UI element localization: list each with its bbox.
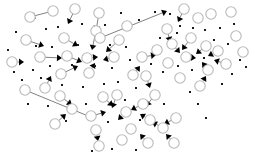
- graph-node-circle: [231, 31, 241, 41]
- leaf-node-dot: [221, 83, 223, 85]
- graph-node-circle: [35, 52, 45, 62]
- leaf-node-dot: [239, 59, 241, 61]
- circle-node-layer: [7, 4, 248, 151]
- leaf-node-dot: [7, 49, 9, 51]
- leaf-node-dot: [15, 31, 17, 33]
- edge-arrowhead: [182, 44, 188, 50]
- graph-node-circle: [40, 83, 50, 93]
- leaf-node-dot: [135, 149, 137, 151]
- leaf-node-dot: [138, 19, 140, 21]
- leaf-node-dot: [129, 59, 131, 61]
- leaf-node-dot: [245, 66, 247, 68]
- leaf-node-dot: [154, 11, 156, 13]
- network-graph-canvas: [0, 0, 255, 163]
- graph-node-circle: [48, 6, 58, 16]
- graph-node-circle: [226, 7, 236, 17]
- graph-node-circle: [122, 21, 132, 31]
- leaf-node-dot: [65, 120, 67, 122]
- edge-arrowhead: [93, 54, 98, 61]
- graph-edge: [97, 18, 98, 26]
- leaf-node-dot: [192, 27, 194, 29]
- leaf-node-dot: [117, 81, 119, 83]
- edge-arrowhead: [57, 54, 62, 61]
- edge-arrowhead: [19, 59, 24, 66]
- graph-edge: [72, 58, 78, 60]
- graph-node-circle: [238, 47, 248, 57]
- graph-edge: [70, 14, 73, 20]
- leaf-node-dot: [21, 79, 23, 81]
- leaf-node-dot: [125, 46, 127, 48]
- graph-node-circle: [186, 33, 196, 43]
- graph-node-circle: [221, 59, 231, 69]
- leaf-node-dot: [120, 12, 122, 14]
- leaf-node-dot: [139, 119, 141, 121]
- leaf-node-dot: [13, 71, 15, 73]
- leaf-node-dot: [204, 29, 206, 31]
- graph-edge: [114, 100, 115, 103]
- graph-node-circle: [112, 90, 122, 100]
- graph-node-circle: [158, 123, 168, 133]
- leaf-node-dot: [162, 71, 164, 73]
- leaf-node-dot: [219, 27, 221, 29]
- leaf-node-dot: [205, 117, 207, 119]
- leaf-node-dot: [109, 44, 111, 46]
- graph-edge: [149, 99, 152, 102]
- graph-node-circle: [138, 99, 148, 109]
- leaf-node-dot: [45, 28, 47, 30]
- edge-arrowhead: [196, 48, 202, 54]
- leaf-node-dot: [135, 87, 137, 89]
- graph-edge: [35, 12, 48, 15]
- leaf-node-dot: [49, 65, 51, 67]
- leaf-node-dot: [177, 65, 179, 67]
- graph-edge: [105, 13, 163, 36]
- leaf-node-dot: [197, 103, 199, 105]
- graph-node-circle: [162, 24, 172, 34]
- graph-node-circle: [94, 8, 104, 18]
- graph-node-circle: [175, 73, 185, 83]
- leaf-node-dot: [124, 99, 126, 101]
- graph-node-circle: [201, 41, 211, 51]
- graph-node-circle: [59, 33, 69, 43]
- graph-node-circle: [7, 57, 17, 67]
- leaf-node-dot: [32, 69, 34, 71]
- leaf-node-dot: [191, 69, 193, 71]
- leaf-node-dot: [111, 148, 113, 150]
- graph-node-circle: [94, 141, 104, 151]
- graph-node-circle: [181, 52, 191, 62]
- leaf-node-dot: [94, 65, 96, 67]
- graph-node-circle: [143, 138, 153, 148]
- graph-node-circle: [213, 46, 223, 56]
- graph-node-circle: [206, 9, 216, 19]
- leaf-node-dot: [233, 23, 235, 25]
- graph-node-circle: [109, 52, 119, 62]
- graph-node-circle: [21, 35, 31, 45]
- graph-node-circle: [121, 107, 131, 117]
- graph-node-circle: [137, 52, 147, 62]
- leaf-node-dot: [179, 25, 181, 27]
- leaf-node-dot: [51, 46, 53, 48]
- graph-node-circle: [179, 4, 189, 14]
- graph-edge: [64, 99, 68, 102]
- graph-edge: [69, 41, 74, 44]
- leaf-node-dot: [91, 150, 93, 152]
- graph-node-circle: [126, 124, 136, 134]
- leaf-node-dot: [81, 23, 83, 25]
- graph-node-circle: [114, 35, 124, 45]
- leaf-node-dot: [82, 86, 84, 88]
- graph-node-circle: [86, 111, 96, 121]
- leaf-node-dot: [163, 103, 165, 105]
- leaf-node-dot: [159, 37, 161, 39]
- leaf-node-dot: [57, 26, 59, 28]
- graph-node-circle: [195, 81, 205, 91]
- graph-edge: [45, 57, 57, 58]
- leaf-node-dot: [27, 103, 29, 105]
- graph-node-circle: [141, 71, 151, 81]
- edge-layer: [17, 10, 221, 141]
- leaf-node-dot: [85, 103, 87, 105]
- leaf-node-dot: [203, 57, 205, 59]
- leaf-node-dot: [77, 44, 79, 46]
- graph-node-circle: [50, 119, 60, 129]
- graph-node-circle: [145, 115, 155, 125]
- graph-edge: [185, 42, 188, 46]
- leaf-node-dot: [47, 105, 49, 107]
